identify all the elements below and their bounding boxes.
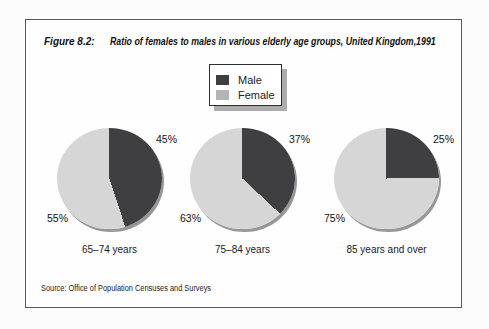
pie-chart-85-over: [334, 128, 439, 229]
female-percent-label: 55%: [47, 212, 68, 224]
legend-label-female: Female: [238, 90, 275, 101]
male-percent-label: 45%: [156, 133, 177, 145]
figure-caption: Ratio of females to males in various eld…: [110, 36, 436, 47]
age-group-label: 75–84 years: [215, 244, 270, 255]
legend-label-male: Male: [238, 75, 262, 86]
source-note: Source: Office of Population Censuses an…: [41, 283, 211, 293]
female-percent-label: 75%: [324, 212, 345, 224]
age-group-label: 85 years and over: [346, 244, 426, 255]
figure-number: Figure 8.2:: [44, 36, 95, 47]
male-percent-label: 25%: [433, 133, 454, 145]
male-color-swatch: [216, 75, 229, 85]
female-color-swatch: [216, 90, 229, 100]
pie-group-85-over: 25% 75% 85 years and over: [334, 128, 439, 229]
pie-group-75-84: 37% 63% 75–84 years: [190, 128, 295, 229]
female-percent-label: 63%: [180, 212, 201, 224]
pie-chart-65-74: [57, 128, 162, 229]
legend: Male Female: [209, 64, 282, 106]
figure-frame: Figure 8.2: Ratio of females to males in…: [25, 19, 462, 308]
pie-group-65-74: 45% 55% 65–74 years: [57, 128, 162, 229]
age-group-label: 65–74 years: [82, 244, 137, 255]
legend-item-female: Female: [216, 88, 281, 102]
male-percent-label: 37%: [289, 133, 310, 145]
figure-title: Figure 8.2: Ratio of females to males in…: [44, 36, 480, 47]
legend-item-male: Male: [216, 73, 281, 87]
pie-chart-75-84: [190, 128, 295, 229]
